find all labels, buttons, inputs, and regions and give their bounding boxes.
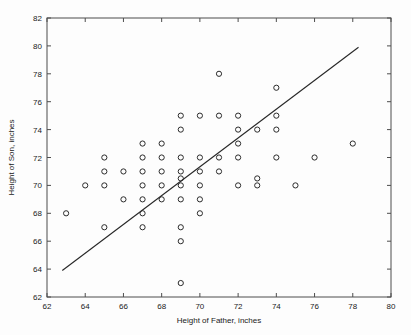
data-point-marker [178,176,183,181]
data-point-marker [293,183,298,188]
data-point-marker [216,71,221,76]
data-point-marker [236,127,241,132]
y-axis-tick-label: 78 [33,70,42,79]
data-point-marker [350,141,355,146]
y-axis-tick-label: 66 [33,237,42,246]
data-point-marker [216,155,221,160]
data-point-marker [236,155,241,160]
data-point-marker [197,155,202,160]
data-point-marker [159,169,164,174]
y-axis-tick-label: 68 [33,209,42,218]
y-axis-tick-label: 70 [33,181,42,190]
y-axis-tick-label: 82 [33,14,42,23]
data-point-marker [140,197,145,202]
data-point-marker [140,169,145,174]
y-axis-tick-label: 80 [33,42,42,51]
y-axis-tick-label: 76 [33,98,42,107]
data-point-marker [236,113,241,118]
data-point-marker [274,113,279,118]
data-point-marker [159,141,164,146]
data-point-marker [140,183,145,188]
x-axis-tick-label: 76 [310,302,319,311]
x-axis-tick-label: 62 [43,302,52,311]
data-point-marker [121,169,126,174]
data-point-marker [216,169,221,174]
data-point-marker [178,280,183,285]
data-point-marker [178,183,183,188]
data-point-marker [178,155,183,160]
data-point-marker [236,141,241,146]
data-point-marker [102,155,107,160]
x-axis-tick-label: 70 [195,302,204,311]
data-point-marker [102,225,107,230]
x-axis-tick-label: 64 [81,302,90,311]
data-point-marker [216,113,221,118]
data-point-marker [274,85,279,90]
data-point-marker [312,155,317,160]
y-axis-title: Height of Son, inches [7,119,16,195]
data-point-marker [236,183,241,188]
x-axis-tick-label: 66 [119,302,128,311]
data-point-marker [102,169,107,174]
y-axis-tick-label: 74 [33,126,42,135]
x-axis-tick-label: 80 [387,302,396,311]
data-point-marker [255,176,260,181]
x-axis-tick-label: 68 [157,302,166,311]
data-point-marker [140,141,145,146]
data-point-marker [140,155,145,160]
y-axis-tick-label: 62 [33,293,42,302]
father-son-height-scatter-chart: 6264666870727476788062646668707274767880… [0,0,411,335]
data-point-marker [159,155,164,160]
data-point-marker [121,197,126,202]
data-point-marker [197,113,202,118]
data-point-marker [64,211,69,216]
data-point-marker [83,183,88,188]
data-point-marker [197,183,202,188]
data-point-marker [178,127,183,132]
scatter-plot-figure: 6264666870727476788062646668707274767880… [0,0,411,335]
data-point-marker [274,155,279,160]
data-point-marker [255,183,260,188]
data-point-marker [102,183,107,188]
data-point-marker [255,127,260,132]
y-axis-tick-label: 72 [33,154,42,163]
plot-frame [47,18,391,297]
data-point-marker [159,197,164,202]
data-point-marker [178,113,183,118]
data-point-marker [197,169,202,174]
data-point-marker [178,225,183,230]
data-point-marker [197,211,202,216]
data-point-marker [178,169,183,174]
data-point-marker [197,197,202,202]
x-axis-tick-label: 72 [234,302,243,311]
data-point-marker [140,225,145,230]
data-point-marker [159,183,164,188]
x-axis-tick-label: 74 [272,302,281,311]
data-point-marker [140,211,145,216]
x-axis-title: Height of Father, inches [177,316,262,325]
data-point-marker [178,197,183,202]
y-axis-tick-label: 64 [33,265,42,274]
data-point-marker [274,127,279,132]
x-axis-tick-label: 78 [348,302,357,311]
data-point-marker [178,239,183,244]
